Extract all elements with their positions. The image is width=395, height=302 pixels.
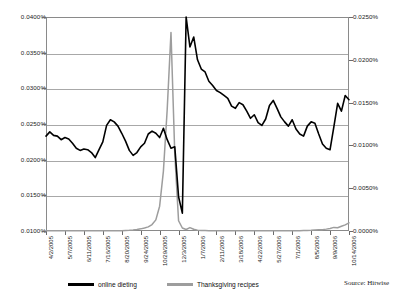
legend-item-online-dieting: online dieting xyxy=(68,281,137,288)
data-series-layer xyxy=(0,0,395,302)
series-line-thanksgiving-recipes xyxy=(46,32,349,230)
legend-label-thanksgiving-recipes: Thanksgiving recipes xyxy=(197,281,259,288)
source-note: Source: Hitwise xyxy=(344,279,389,287)
legend-item-thanksgiving-recipes: Thanksgiving recipes xyxy=(167,281,259,288)
legend-swatch-online-dieting xyxy=(68,283,94,285)
legend-label-online-dieting: online dieting xyxy=(98,281,137,288)
chart-container: 0.0400%0.0350%0.0300%0.0250%0.0200%0.015… xyxy=(0,0,395,302)
legend-swatch-thanksgiving-recipes xyxy=(167,283,193,285)
chart-legend: online dieting Thanksgiving recipes xyxy=(68,281,283,288)
series-line-online-dieting xyxy=(46,17,349,213)
